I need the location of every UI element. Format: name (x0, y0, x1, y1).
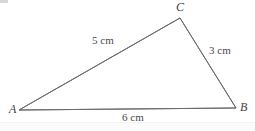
vertex-label-a: A (9, 103, 16, 115)
triangle-diagram: A B C 5 cm 3 cm 6 cm (0, 0, 255, 131)
segment-ab (19, 108, 236, 110)
segment-ac (19, 18, 180, 110)
segment-cb (180, 18, 236, 108)
bottom-edge-band (0, 122, 255, 131)
vertex-label-c: C (176, 1, 184, 13)
side-length-label-ac: 5 cm (92, 35, 114, 46)
side-length-label-cb: 3 cm (209, 45, 231, 56)
triangle-outline (19, 18, 236, 110)
vertex-label-b: B (240, 101, 247, 113)
corner-artifact (0, 0, 8, 3)
